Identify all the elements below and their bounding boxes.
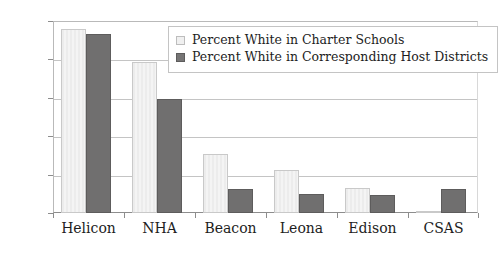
bar-leona-district (299, 194, 324, 213)
legend-item-charter-schools: Percent White in Charter Schools (176, 32, 488, 49)
bar-edison-district (370, 195, 395, 213)
bar-helicon-district (86, 34, 111, 213)
x-tick-4 (337, 213, 338, 218)
x-tick-0 (53, 213, 54, 218)
bar-nha-charter (132, 62, 157, 213)
legend-item-host-districts: Percent White in Corresponding Host Dist… (176, 49, 488, 66)
bar-beacon-charter (203, 154, 228, 213)
bar-beacon-district (228, 189, 253, 213)
chart-legend: Percent White in Charter Schools Percent… (168, 26, 498, 73)
bar-leona-charter (274, 170, 299, 213)
legend-swatch-charter-schools (176, 36, 185, 45)
x-tick-3 (266, 213, 267, 218)
bar-csas-charter (416, 211, 441, 213)
x-tick-5 (408, 213, 409, 218)
x-tick-2 (195, 213, 196, 218)
x-tick-6 (478, 213, 479, 218)
legend-swatch-host-districts (176, 53, 185, 62)
bar-csas-district (441, 189, 466, 213)
x-axis-label-beacon: Beacon (195, 221, 266, 236)
x-axis-label-nha: NHA (124, 221, 195, 236)
bar-nha-district (157, 99, 182, 213)
x-axis-label-csas: CSAS (408, 221, 479, 236)
legend-label-host-districts: Percent White in Corresponding Host Dist… (192, 51, 488, 64)
x-axis-label-helicon: Helicon (53, 221, 124, 236)
x-tick-1 (124, 213, 125, 218)
x-axis-label-edison: Edison (337, 221, 408, 236)
bar-helicon-charter (61, 29, 86, 213)
x-axis-label-leona: Leona (266, 221, 337, 236)
bar-edison-charter (345, 188, 370, 213)
legend-label-charter-schools: Percent White in Charter Schools (192, 34, 404, 47)
